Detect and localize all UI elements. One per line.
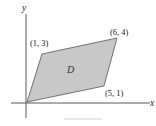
y-axis-label: y [21,3,27,13]
region-label: D [66,64,75,75]
vertex-label-6-4: (6, 4) [110,27,129,37]
vertex-label-1-3: (1, 3) [30,38,49,48]
vertex-label-5-1: (5, 1) [105,88,124,98]
x-axis-label: x [149,98,155,108]
parallelogram-diagram: x y D (1, 3) (6, 4) (5, 1) [0,0,156,126]
faint-caption [64,118,102,120]
